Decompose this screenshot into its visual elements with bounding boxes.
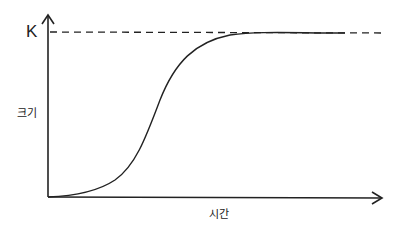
growth-curve [48, 33, 345, 198]
carrying-capacity-label: K [26, 22, 37, 42]
x-axis-label: 시간 [209, 205, 229, 221]
logistic-growth-diagram [0, 0, 399, 228]
y-axis-label: 크기 [17, 104, 37, 120]
x-axis [48, 197, 382, 198]
